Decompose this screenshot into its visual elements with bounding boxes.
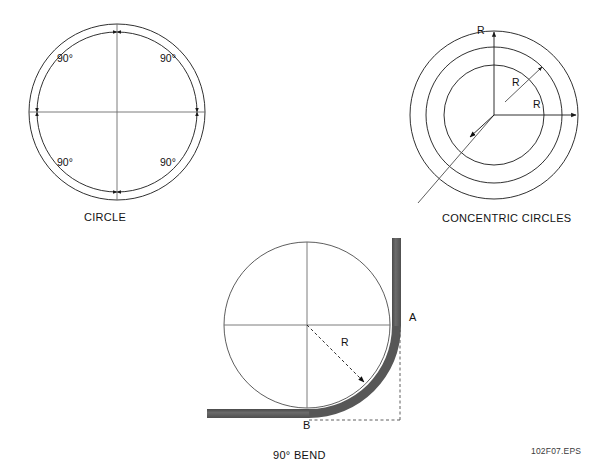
figure-90-degree-bend	[207, 238, 401, 420]
concentric-radius-label-up: R	[477, 24, 485, 36]
bend-point-label-b: B	[303, 419, 310, 431]
circle-angle-label-lower-right: 90°	[160, 156, 176, 168]
concentric-center-arrowhead	[470, 115, 494, 137]
caption-concentric-circles: CONCENTRIC CIRCLES	[442, 212, 571, 224]
circle-angle-label-upper-left: 90°	[57, 52, 73, 64]
figure-circle	[29, 24, 205, 200]
bend-radius-dimension-line	[307, 325, 364, 382]
circle-angle-label-lower-left: 90°	[57, 156, 73, 168]
caption-90-degree-bend: 90° BEND	[273, 449, 326, 461]
concentric-radius-label-right: R	[533, 98, 541, 110]
bend-pipe-vertical-leg	[392, 238, 401, 326]
figure-concentric-circles	[410, 31, 578, 203]
circle-angle-label-upper-right: 90°	[160, 52, 176, 64]
bend-pipe-horizontal-leg	[207, 409, 309, 418]
concentric-radius-label-diagonal: R	[512, 76, 520, 88]
technical-drawing-svg	[0, 0, 610, 475]
circle-arc-quadrant-upper-right	[117, 32, 197, 112]
bend-pipe-elbow	[309, 326, 401, 418]
circle-arc-quadrant-upper-left	[37, 32, 117, 112]
file-identifier: 102F07.EPS	[531, 446, 581, 456]
circle-arc-quadrant-lower-left	[37, 112, 117, 192]
diagram-canvas: 90° 90° 90° 90° R R R R A B CIRCLE CONCE…	[0, 0, 610, 475]
bend-radius-label: R	[341, 336, 349, 348]
bend-point-label-a: A	[409, 311, 416, 323]
caption-circle: CIRCLE	[84, 211, 126, 223]
concentric-radius-arrow-diagonal	[505, 67, 542, 102]
circle-arc-quadrant-lower-right	[117, 112, 197, 192]
